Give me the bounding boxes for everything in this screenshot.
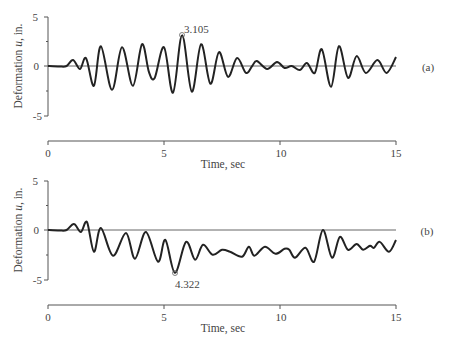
y-tick-label: -5	[33, 110, 43, 122]
panel-label-b: (b)	[421, 225, 434, 238]
x-tick-label: 5	[161, 311, 167, 323]
x-tick-label: 0	[45, 311, 51, 323]
x-tick-label: 15	[391, 311, 403, 323]
x-tick-label: 0	[45, 147, 51, 159]
panel-b: 5 0 -5 Deformation u, in. 4.322 0 5 10 1…	[12, 175, 434, 335]
y-tick-label: 5	[33, 175, 39, 187]
x-tick-label: 10	[276, 147, 288, 159]
y-tick-label: 0	[34, 224, 40, 236]
x-tick-label: 10	[276, 311, 288, 323]
chart-canvas: 5 0 -5 Deformation u, in. 3.105 0 5 10 1…	[0, 0, 449, 345]
x-axis-title: Time, sec	[201, 322, 245, 335]
x-axis-title: Time, sec	[201, 158, 245, 171]
response-curve-a	[48, 35, 396, 92]
response-curve-b	[48, 222, 396, 273]
peak-annotation-b: 4.322	[175, 278, 200, 290]
peak-annotation-a: 3.105	[184, 23, 209, 35]
x-tick-label: 15	[391, 147, 403, 159]
x-tick-label: 5	[161, 147, 167, 159]
panel-label-a: (a)	[422, 61, 435, 74]
y-axis-title: Deformation u, in.	[12, 187, 25, 272]
y-axis-title: Deformation u, in.	[12, 23, 25, 108]
panel-a: 5 0 -5 Deformation u, in. 3.105 0 5 10 1…	[12, 11, 434, 171]
y-tick-label: -5	[33, 274, 43, 286]
y-tick-label: 5	[33, 11, 39, 23]
y-tick-label: 0	[34, 60, 40, 72]
